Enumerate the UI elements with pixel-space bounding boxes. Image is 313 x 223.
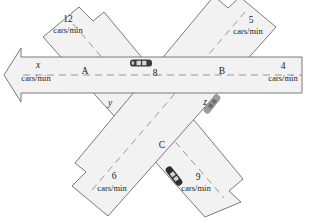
node-label-B: B — [219, 66, 225, 76]
car-horizontal-window-rear — [142, 61, 146, 65]
car-horizontal-window — [137, 61, 141, 65]
node-label-A: A — [82, 66, 89, 76]
flow-label-BC: z — [202, 97, 207, 107]
flow-label-AB: 8 — [153, 68, 158, 78]
external-flow-value: 4 — [281, 61, 286, 71]
external-flow-unit: cars/min — [233, 26, 263, 36]
external-flow-unit: cars/min — [53, 25, 83, 35]
diagram-canvas: A B C 8 y z 12 cars/min 5 cars/min x car… — [0, 0, 313, 223]
flow-label-AC: y — [107, 98, 113, 108]
external-flow-unit: cars/min — [181, 183, 211, 193]
external-flow-value: 12 — [63, 14, 73, 24]
external-flow-value: x — [35, 60, 41, 70]
external-flow-value: 5 — [249, 15, 254, 25]
car-horizontal — [130, 59, 152, 66]
external-flow-unit: cars/min — [268, 73, 298, 83]
external-flow-value: 9 — [196, 172, 201, 182]
node-label-C: C — [159, 140, 165, 150]
external-flow-unit: cars/min — [21, 73, 51, 83]
external-flow-value: 6 — [112, 171, 117, 181]
car-horizontal-headlight — [132, 61, 135, 64]
traffic-flow-diagram: A B C 8 y z 12 cars/min 5 cars/min x car… — [0, 0, 313, 223]
external-flow-unit: cars/min — [97, 183, 127, 193]
